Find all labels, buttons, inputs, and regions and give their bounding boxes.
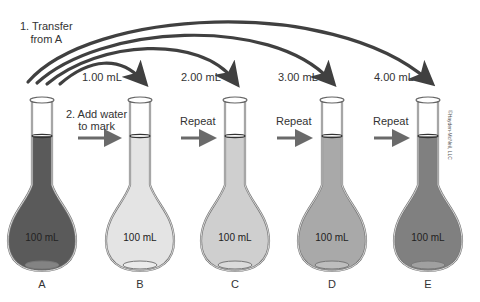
flask-volume-d: 100 mL [302,232,362,243]
flask-volume-c: 100 mL [205,232,265,243]
transfer-volume-b: 1.00 mL [82,71,122,83]
flask-label-c: C [225,278,245,290]
transfer-volume-d: 3.00 mL [278,71,318,83]
flask-liquid [8,136,76,271]
flask-volume-a: 100 mL [12,232,72,243]
add-water-label-line1: 2. Add water [66,108,127,120]
flask-volume-e: 100 mL [398,232,458,243]
transfer-label-line2: from A [20,33,73,46]
transfer-volume-e: 4.00 mL [374,71,414,83]
repeat-label-1: Repeat [180,115,215,127]
flask-label-d: D [322,278,342,290]
repeat-label-2: Repeat [276,115,311,127]
flask-liquid [298,136,366,271]
add-water-label: 2. Add water to mark [66,108,127,132]
transfer-label-line1: 1. Transfer [20,20,73,33]
transfer-volume-c: 2.00 mL [181,71,221,83]
flask-liquid [201,136,269,271]
flask-label-a: A [32,278,52,290]
transfer-label: 1. Transfer from A [20,20,73,46]
flask-label-e: E [418,278,438,290]
repeat-label-3: Repeat [373,115,408,127]
flask-label-b: B [130,278,150,290]
flask-liquid [106,136,174,271]
flask-volume-b: 100 mL [110,232,170,243]
add-water-label-line2: to mark [66,120,127,132]
copyright-text: ©Hayden-McNeil, LLC [447,110,453,160]
